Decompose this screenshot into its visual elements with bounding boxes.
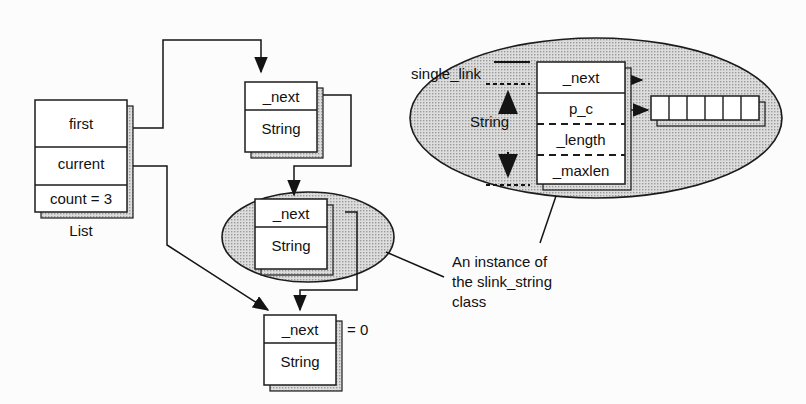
detail-caption-line-2: the slink_string [452,272,552,292]
node-3-next-label: _next [264,321,336,338]
node-3-null-annotation: = 0 [347,321,368,338]
list-field-first: first [35,115,127,132]
detail-caption-line-3: class [452,292,486,312]
detail-caption-line-1: An instance of [452,252,547,272]
node-2-string-label: String [255,237,327,254]
detail-field-length: _length [537,131,625,148]
detail-field-pc: p_c [537,100,625,117]
char-array-box [651,96,765,126]
connector-first-to-node1 [124,40,261,128]
node-1-string-label: String [245,120,317,137]
node-2-next-label: _next [255,205,327,222]
detail-derived-class-label: String [470,113,509,130]
list-object-caption: List [35,222,127,239]
detail-field-next: _next [537,69,625,86]
detail-field-maxlen: _maxlen [537,162,625,179]
node-1-next-label: _next [245,88,317,105]
list-field-current: current [35,155,127,172]
diagram-canvas: first current count = 3 List _next Strin… [0,0,806,404]
node-3-string-label: String [264,353,336,370]
leader-line-small-ellipse [386,252,444,277]
leader-line-big-ellipse [540,196,556,243]
detail-base-class-label: single_link [411,65,481,82]
list-field-count: count = 3 [35,190,127,207]
